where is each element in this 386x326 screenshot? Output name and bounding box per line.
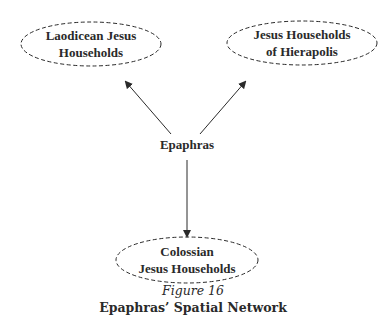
arrow-to-hierapolis [200,82,245,134]
network-diagram: Laodicean Jesus Households Jesus Househo… [0,0,386,326]
node-laodicea: Laodicean Jesus Households [21,22,161,66]
node-label-line-1: Colossian [160,244,214,259]
figure-title: Epaphras’ Spatial Network [0,300,386,315]
node-colossae: Colossian Jesus Households [116,237,258,283]
node-label-line-2: Households [59,45,123,60]
node-label-line-1: Jesus Households [253,27,350,42]
node-label-line-2: Jesus Households [138,261,235,276]
node-label-line-2: of Hierapolis [266,44,338,59]
node-label-epaphras: Epaphras [160,137,214,152]
node-hierapolis: Jesus Households of Hierapolis [227,21,377,65]
figure-number: Figure 16 [0,283,386,298]
arrow-to-laodicea [126,82,171,134]
node-epaphras: Epaphras [160,137,214,152]
node-label-line-1: Laodicean Jesus [46,28,137,43]
